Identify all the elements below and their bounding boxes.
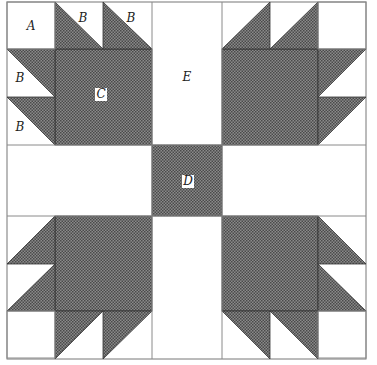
patch-c-bottom-right [222, 216, 318, 311]
label-e: E [182, 70, 192, 84]
label-a: A [26, 19, 36, 33]
patch-c-bottom-left [55, 216, 152, 311]
label-c: C [96, 87, 105, 101]
label-b: B [78, 11, 88, 25]
label-b: B [126, 11, 136, 25]
label-d: D [182, 174, 193, 188]
quilt-block-diagram: ABBBBCED [0, 0, 377, 365]
patch-c-top-right [222, 49, 318, 145]
label-b: B [15, 71, 25, 85]
label-b: B [15, 120, 25, 134]
